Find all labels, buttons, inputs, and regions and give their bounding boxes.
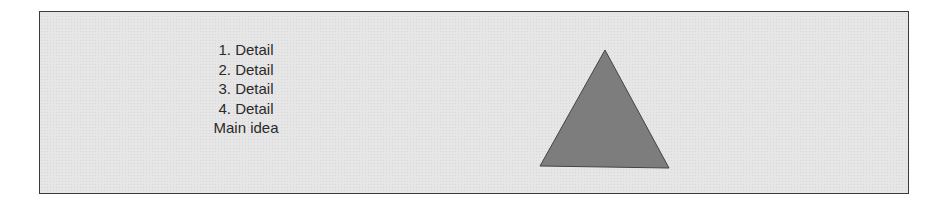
detail-list: 1. Detail 2. Detail 3. Detail 4. Detail … bbox=[190, 40, 302, 138]
triangle-icon bbox=[530, 48, 670, 173]
main-idea-label: Main idea bbox=[190, 118, 302, 138]
detail-item-4: 4. Detail bbox=[190, 99, 302, 119]
detail-item-3: 3. Detail bbox=[190, 79, 302, 99]
detail-item-1: 1. Detail bbox=[190, 40, 302, 60]
diagram-panel: 1. Detail 2. Detail 3. Detail 4. Detail … bbox=[39, 11, 909, 194]
detail-item-2: 2. Detail bbox=[190, 60, 302, 80]
